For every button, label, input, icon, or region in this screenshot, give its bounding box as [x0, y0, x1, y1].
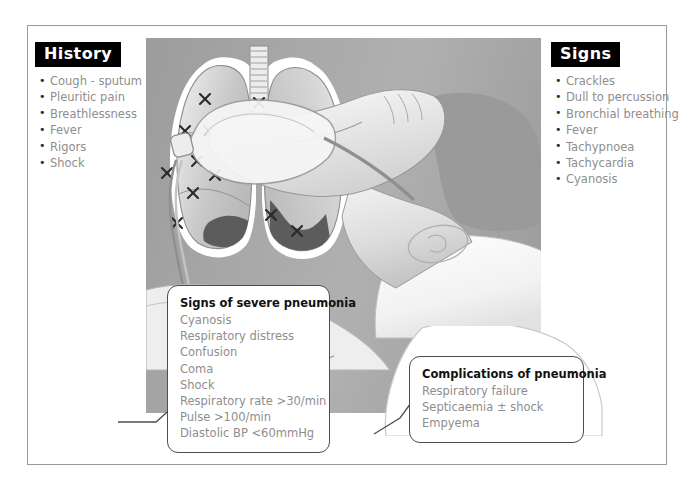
- list-item: Tachypnoea: [555, 139, 679, 155]
- complications-list: Respiratory failure Septicaemia ± shock …: [422, 383, 571, 432]
- list-item: Cough - sputum: [39, 73, 142, 89]
- complications-callout: Complications of pneumonia Respiratory f…: [409, 356, 584, 443]
- figure-frame: History Cough - sputum Pleuritic pain Br…: [27, 25, 667, 465]
- list-item: Bronchial breathing: [555, 106, 679, 122]
- list-item: Tachycardia: [555, 155, 679, 171]
- list-item: Crackles: [555, 73, 679, 89]
- severe-pneumonia-callout: Signs of severe pneumonia Cyanosis Respi…: [167, 285, 330, 453]
- list-item: Shock: [180, 377, 317, 393]
- list-item: Cyanosis: [555, 171, 679, 187]
- list-item: Breathlessness: [39, 106, 142, 122]
- signs-heading: Signs: [551, 42, 620, 67]
- list-item: Shock: [39, 155, 142, 171]
- list-item: Respiratory distress: [180, 328, 317, 344]
- list-item: Dull to percussion: [555, 89, 679, 105]
- list-item: Respiratory rate >30/min: [180, 393, 317, 409]
- list-item: Confusion: [180, 344, 317, 360]
- list-item: Coma: [180, 361, 317, 377]
- list-item: Fever: [39, 122, 142, 138]
- history-list: Cough - sputum Pleuritic pain Breathless…: [39, 73, 142, 171]
- list-item: Septicaemia ± shock: [422, 399, 571, 415]
- list-item: Fever: [555, 122, 679, 138]
- list-item: Respiratory failure: [422, 383, 571, 399]
- severe-pneumonia-list: Cyanosis Respiratory distress Confusion …: [180, 312, 317, 442]
- list-item: Pleuritic pain: [39, 89, 142, 105]
- signs-list: Crackles Dull to percussion Bronchial br…: [555, 73, 679, 188]
- list-item: Diastolic BP <60mmHg: [180, 425, 317, 441]
- list-item: Rigors: [39, 139, 142, 155]
- list-item: Pulse >100/min: [180, 409, 317, 425]
- list-item: Cyanosis: [180, 312, 317, 328]
- severe-pneumonia-title: Signs of severe pneumonia: [180, 295, 317, 311]
- list-item: Empyema: [422, 415, 571, 431]
- history-heading: History: [35, 42, 121, 67]
- complications-title: Complications of pneumonia: [422, 366, 571, 382]
